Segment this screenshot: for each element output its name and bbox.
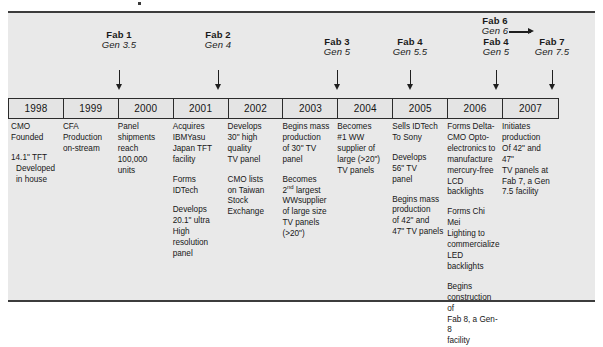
event-line: Production xyxy=(63,133,116,144)
event-line: facility xyxy=(173,155,226,166)
event-line: CFA xyxy=(63,122,116,133)
year-axis: 1998199920002001200220032004200520062007 xyxy=(8,98,559,119)
event-block: Panelshipmentsreach100,000units xyxy=(118,122,171,177)
event-block: Develops20.1" ultraHigh resolutionpanel xyxy=(173,205,226,260)
event-line: 7.5 facility xyxy=(502,187,555,198)
year-cell-1999: 1999 xyxy=(64,99,119,118)
event-line: supplier of xyxy=(337,144,390,155)
event-line: reach xyxy=(118,144,171,155)
event-line: CMO lists xyxy=(228,175,281,186)
fab-marker-fab-6-4: Fab 6Gen 6 xyxy=(450,16,540,37)
event-block: Develops56" TVpanel xyxy=(392,153,445,186)
year-cell-2001: 2001 xyxy=(174,99,229,118)
event-line: Develops xyxy=(228,122,281,133)
event-line: electronics to xyxy=(447,144,500,155)
year-cell-2003: 2003 xyxy=(283,99,338,118)
event-line: LED backlights xyxy=(447,251,500,273)
event-column-2000: Panelshipmentsreach100,000units xyxy=(118,122,173,298)
event-line: Initiates xyxy=(502,122,555,133)
event-column-2004: Becomes#1 WWsupplier oflarge (>20")TV pa… xyxy=(337,122,392,298)
event-column-1998: CMO Founded14.1" TFTDevelopedin house xyxy=(8,122,63,298)
event-line: 56" TV xyxy=(392,164,445,175)
event-line: Exchange xyxy=(228,207,281,218)
ordinal-suffix: nd xyxy=(287,184,294,190)
year-cell-2002: 2002 xyxy=(229,99,284,118)
event-line: shipments xyxy=(118,133,171,144)
event-column-2001: AcquiresIBMYasuJapan TFTfacilityFormsIDT… xyxy=(173,122,228,298)
event-line: IDTech xyxy=(173,186,226,197)
arrow-head xyxy=(528,28,534,34)
event-line: on Taiwan xyxy=(228,186,281,197)
event-column-2005: Sells IDTechTo SonyDevelops56" TVpanelBe… xyxy=(392,122,447,298)
event-block: CMO Founded xyxy=(11,122,61,144)
fab-marker-fab-2-1: Fab 2Gen 4 xyxy=(173,30,263,51)
year-cell-2005: 2005 xyxy=(393,99,448,118)
event-line: Develops xyxy=(173,205,226,216)
event-line: Developed xyxy=(11,164,61,175)
event-block: CFAProductionon-stream xyxy=(63,122,116,155)
event-line: TV panel xyxy=(228,155,281,166)
event-line: #1 WW xyxy=(337,133,390,144)
event-block: InitiatesproductionOf 42" and 47"TV pane… xyxy=(502,122,555,198)
event-line: Begins xyxy=(447,282,500,293)
fab-generation-label: Gen 5.5 xyxy=(365,47,455,57)
event-line: Develops xyxy=(392,153,445,164)
event-block: AcquiresIBMYasuJapan TFTfacility xyxy=(173,122,226,166)
event-line: Becomes xyxy=(337,122,390,133)
event-line: quality xyxy=(228,144,281,155)
event-line: production xyxy=(392,205,445,216)
event-column-2003: Begins massproductionof 30" TVpanelBecom… xyxy=(282,122,337,298)
event-line: of large size xyxy=(282,207,335,218)
event-column-1999: CFAProductionon-stream xyxy=(63,122,118,298)
event-line: manufacture xyxy=(447,155,500,166)
event-line: TV panels at xyxy=(502,166,555,177)
event-line: To Sony xyxy=(392,133,445,144)
event-column-2007: InitiatesproductionOf 42" and 47"TV pane… xyxy=(502,122,557,298)
arrow-head xyxy=(407,84,413,90)
event-line: WWsupplier xyxy=(282,196,335,207)
event-line: construction of xyxy=(447,293,500,315)
arrow-head xyxy=(215,84,221,90)
event-line: commercialize xyxy=(447,240,500,251)
fab-marker-fab-7-6: Fab 7Gen 7.5 xyxy=(507,37,597,58)
event-line: Acquires xyxy=(173,122,226,133)
event-line: 20.1" ultra xyxy=(173,216,226,227)
event-block: Becomes2nd largestWWsupplierof large siz… xyxy=(282,175,335,240)
year-cell-1998: 1998 xyxy=(9,99,64,118)
fab-marker-fab-1-0: Fab 1Gen 3.5 xyxy=(74,30,164,51)
event-line: 100,000 xyxy=(118,155,171,166)
year-cell-2007: 2007 xyxy=(503,99,558,118)
fab-generation-label: Gen 4 xyxy=(173,40,263,50)
event-columns: CMO Founded14.1" TFTDevelopedin houseCFA… xyxy=(8,122,595,298)
event-line: Lighting to xyxy=(447,229,500,240)
arrow-head xyxy=(549,84,555,90)
event-block: Becomes#1 WWsupplier oflarge (>20")TV pa… xyxy=(337,122,390,177)
event-line: CMO Founded xyxy=(11,122,61,144)
event-line: Stock xyxy=(228,196,281,207)
event-line: Forms Delta- xyxy=(447,122,500,133)
fab-generation-label: Gen 3.5 xyxy=(74,40,164,50)
event-block: Forms Chi MeiLighting tocommercializeLED… xyxy=(447,207,500,272)
event-line: panel xyxy=(392,175,445,186)
event-block: 14.1" TFTDevelopedin house xyxy=(11,153,61,186)
event-line: TV panels xyxy=(282,218,335,229)
event-line: large (>20") xyxy=(337,155,390,166)
event-line: Forms xyxy=(173,175,226,186)
event-block: Forms Delta-CMO Opto-electronics tomanuf… xyxy=(447,122,500,198)
event-block: FormsIDTech xyxy=(173,175,226,197)
event-block: Beginsconstruction ofFab 8, a Gen-8facil… xyxy=(447,282,500,347)
event-line: Japan TFT xyxy=(173,144,226,155)
event-line: of 42" and xyxy=(392,216,445,227)
year-cell-2006: 2006 xyxy=(448,99,503,118)
event-line: (>20") xyxy=(282,229,335,240)
event-line: TV panels xyxy=(337,166,390,177)
event-line: mercury-free xyxy=(447,166,500,177)
event-line: Sells IDTech xyxy=(392,122,445,133)
event-line: Of 42" and 47" xyxy=(502,144,555,166)
event-line: Fab 8, a Gen-8 xyxy=(447,315,500,337)
event-column-2006: Forms Delta-CMO Opto-electronics tomanuf… xyxy=(447,122,502,298)
arrow-head xyxy=(116,84,122,90)
event-line: panel xyxy=(282,155,335,166)
event-line: 14.1" TFT xyxy=(11,153,61,164)
event-block: CMO listson TaiwanStockExchange xyxy=(228,175,281,219)
